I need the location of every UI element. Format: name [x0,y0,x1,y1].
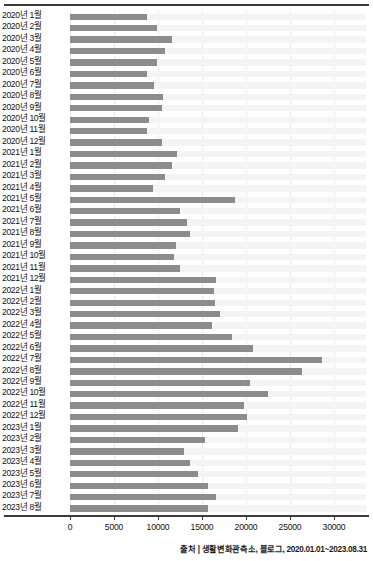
bar [70,36,172,42]
category-label: 2023년 2월 [2,433,68,444]
category-label: 2020년 10월 [2,113,68,124]
axis-tick-label: 25000 [279,522,302,532]
category-label: 2020년 2월 [2,21,68,32]
bar [70,483,208,489]
bar [70,105,162,111]
category-label: 2022년 12월 [2,410,68,421]
axis-tick [114,515,115,520]
category-label: 2022년 2월 [2,296,68,307]
category-label: 2020년 11월 [2,124,68,135]
category-label: 2023년 3월 [2,445,68,456]
axis-tick [290,515,291,520]
axis-tick-label: 10000 [147,522,170,532]
bar [70,82,154,88]
bar [70,208,180,214]
category-label: 2021년 10월 [2,250,68,261]
category-label: 2021년 3월 [2,170,68,181]
category-label: 2023년 5월 [2,468,68,479]
axis-tick [158,515,159,520]
bar [70,14,147,20]
bar [70,242,176,248]
bar [70,48,165,54]
bar-rows: 2020년 1월2020년 2월2020년 3월2020년 4월2020년 5월… [0,11,373,514]
axis-tick [246,515,247,520]
axis-tick [334,515,335,520]
bar [70,162,172,168]
x-axis-line [4,515,369,517]
bar [70,368,302,374]
bar [70,494,216,500]
category-label: 2021년 11월 [2,262,68,273]
bar [70,174,165,180]
category-label: 2021년 9월 [2,239,68,250]
category-label: 2021년 1월 [2,147,68,158]
bar [70,185,153,191]
bar [70,357,322,363]
bar [70,25,157,31]
category-label: 2020년 8월 [2,90,68,101]
bar [70,322,212,328]
bar [70,254,174,260]
category-label: 2022년 3월 [2,307,68,318]
bar [70,460,190,466]
category-label: 2023년 6월 [2,479,68,490]
bar [70,288,214,294]
category-label: 2020년 1월 [2,10,68,21]
bar [70,311,220,317]
bar [70,471,198,477]
x-axis: 050001000015000200002500030000 출처 | 생활변화… [0,515,373,561]
category-label: 2022년 1월 [2,285,68,296]
category-label: 2022년 8월 [2,365,68,376]
category-label: 2022년 9월 [2,376,68,387]
chart-row: 2023년 8월 [0,503,373,514]
bar [70,345,253,351]
bar [70,380,250,386]
category-label: 2021년 12월 [2,273,68,284]
bar [70,139,162,145]
bar [70,437,205,443]
bar [70,391,268,397]
bar [70,505,208,511]
category-label: 2023년 7월 [2,490,68,501]
category-label: 2021년 2월 [2,159,68,170]
category-label: 2021년 6월 [2,204,68,215]
category-label: 2020년 4월 [2,44,68,55]
category-label: 2020년 12월 [2,136,68,147]
category-label: 2020년 5월 [2,56,68,67]
axis-tick-label: 5000 [105,522,123,532]
axis-tick-label: 20000 [235,522,258,532]
category-label: 2022년 7월 [2,353,68,364]
bar [70,425,238,431]
bar [70,414,247,420]
axis-tick-label: 15000 [191,522,214,532]
bar [70,231,190,237]
bar [70,402,244,408]
bar [70,128,147,134]
bar [70,117,149,123]
bar [70,71,147,77]
axis-tick-label: 0 [68,522,73,532]
bar [70,59,157,65]
axis-tick-label: 30000 [323,522,346,532]
category-label: 2022년 5월 [2,330,68,341]
category-label: 2022년 10월 [2,387,68,398]
bar [70,219,187,225]
category-label: 2022년 4월 [2,319,68,330]
category-label: 2021년 5월 [2,193,68,204]
bar [70,94,163,100]
bar [70,300,215,306]
plot-area: 2020년 1월2020년 2월2020년 3월2020년 4월2020년 5월… [0,11,373,511]
category-label: 2023년 1월 [2,422,68,433]
bar [70,265,180,271]
bar [70,334,232,340]
category-label: 2021년 4월 [2,182,68,193]
category-label: 2023년 4월 [2,456,68,467]
bar [70,277,216,283]
axis-tick [70,515,71,520]
category-label: 2022년 11월 [2,399,68,410]
category-label: 2020년 6월 [2,67,68,78]
bar [70,448,184,454]
source-caption: 출처 | 생활변화관측소, 블로그, 2020.01.01~2023.08.31 [180,542,367,554]
axis-tick [202,515,203,520]
category-label: 2020년 3월 [2,33,68,44]
